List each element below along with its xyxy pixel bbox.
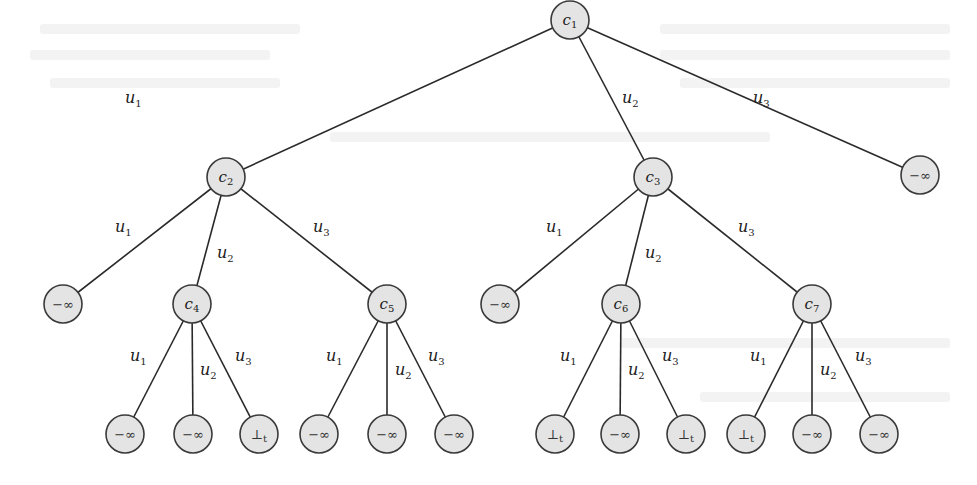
edge-label: u2 [622, 88, 639, 109]
edge-label: u1 [125, 88, 142, 109]
leaf-node: ⊥t [667, 415, 705, 453]
edge-label: u2 [200, 360, 217, 381]
internal-node-c1: c1 [551, 1, 589, 39]
edge-label: u1 [560, 346, 577, 367]
leaf-node: −∞ [300, 415, 338, 453]
internal-node-c3: c3 [634, 158, 672, 196]
edge-label: u2 [645, 243, 662, 264]
leaf-node: ⊥t [536, 415, 574, 453]
edge-c2-c5 [226, 177, 387, 304]
leaf-node: −∞ [481, 285, 519, 323]
internal-node-c4: c4 [173, 285, 211, 323]
node-label: −∞ [52, 297, 74, 312]
leaf-node: −∞ [901, 156, 939, 194]
edge-labels: u1u2u3u1u2u3u1u2u3u1u2u3u1u2u3u1u2u3u1u2… [115, 88, 872, 381]
edge-label: u3 [738, 217, 755, 238]
edge-label: u2 [628, 360, 645, 381]
edge-label: u1 [130, 346, 147, 367]
edge-label: u3 [662, 346, 679, 367]
edge-label: u1 [115, 217, 132, 238]
edge-label: u3 [313, 217, 330, 238]
internal-node-c5: c5 [368, 285, 406, 323]
tree-edges [63, 20, 920, 434]
node-label: −∞ [909, 168, 931, 183]
edge-label: u3 [753, 88, 770, 109]
node-label: −∞ [868, 427, 890, 442]
leaf-node: −∞ [44, 285, 82, 323]
edge-c3-c7 [653, 177, 812, 304]
edge-c3-n_c3_u1 [500, 177, 653, 304]
node-label: −∞ [801, 427, 823, 442]
edge-label: u3 [235, 346, 252, 367]
leaf-node: −∞ [793, 415, 831, 453]
edge-c2-n_c2_u1 [63, 177, 226, 304]
node-label: −∞ [182, 427, 204, 442]
internal-node-c2: c2 [207, 158, 245, 196]
tree-nodes: c1c2c3−∞−∞c4c5−∞c6c7−∞−∞⊥t−∞−∞−∞⊥t−∞⊥t⊥t… [44, 1, 939, 453]
node-label: −∞ [489, 297, 511, 312]
edge-label: u1 [546, 217, 563, 238]
node-label: −∞ [376, 427, 398, 442]
leaf-node: −∞ [860, 415, 898, 453]
leaf-node: ⊥t [240, 415, 278, 453]
node-label: −∞ [114, 427, 136, 442]
leaf-node: ⊥t [727, 415, 765, 453]
edge-label: u1 [326, 346, 343, 367]
node-label: −∞ [308, 427, 330, 442]
edge-c1-c3 [570, 20, 653, 177]
edge-c1-c2 [226, 20, 570, 177]
edge-c5-l4 [319, 304, 387, 434]
internal-node-c6: c6 [602, 285, 640, 323]
leaf-node: −∞ [435, 415, 473, 453]
leaf-node: −∞ [106, 415, 144, 453]
edge-label: u2 [820, 360, 837, 381]
leaf-node: −∞ [368, 415, 406, 453]
edge-label: u1 [750, 346, 767, 367]
edge-label: u2 [217, 243, 234, 264]
node-label: −∞ [443, 427, 465, 442]
node-label: −∞ [609, 427, 631, 442]
leaf-node: −∞ [601, 415, 639, 453]
game-tree-diagram: u1u2u3u1u2u3u1u2u3u1u2u3u1u2u3u1u2u3u1u2… [0, 0, 977, 485]
edge-label: u2 [395, 360, 412, 381]
edge-label: u3 [428, 346, 445, 367]
leaf-node: −∞ [174, 415, 212, 453]
edge-c6-l7 [555, 304, 621, 434]
edge-label: u3 [855, 346, 872, 367]
edge-c4-l1 [125, 304, 192, 434]
edge-c7-l10 [746, 304, 812, 434]
internal-node-c7: c7 [793, 285, 831, 323]
